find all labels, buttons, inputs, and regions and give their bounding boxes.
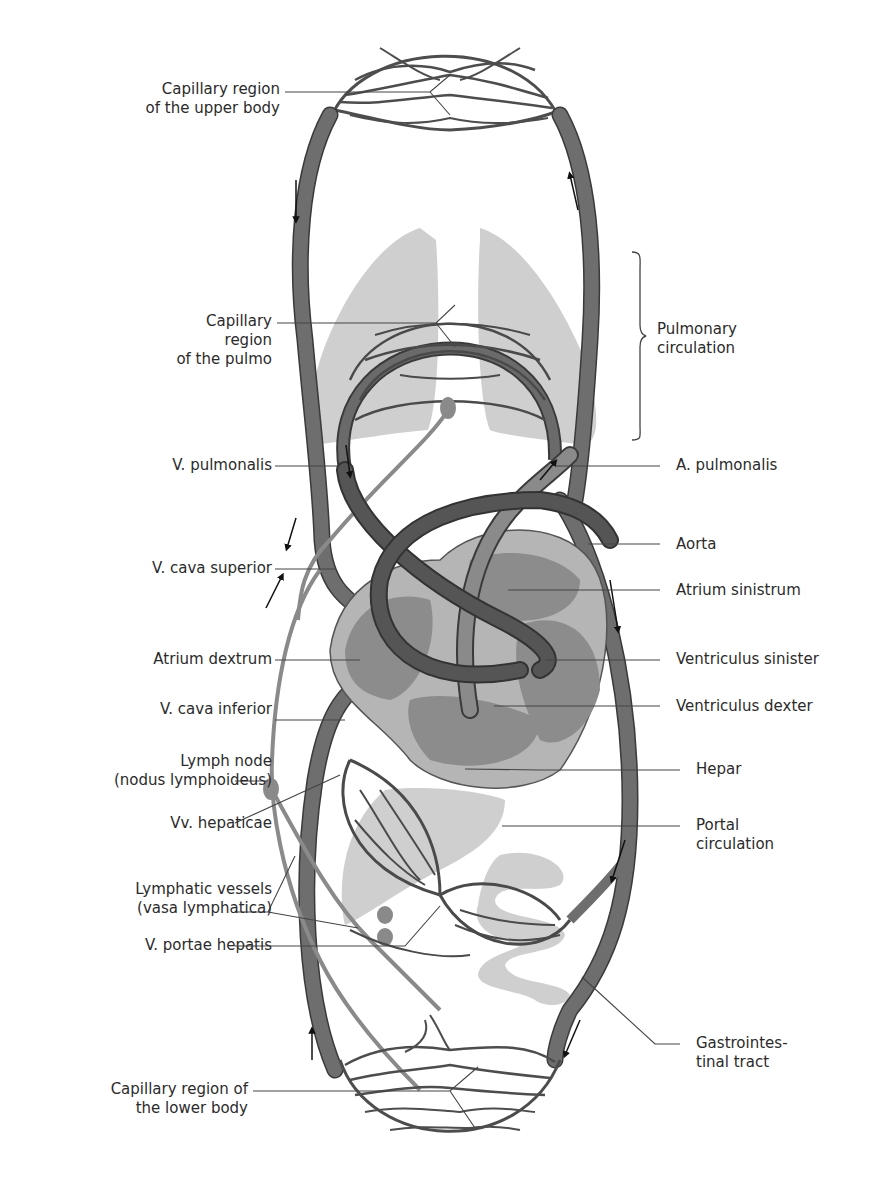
label-hepar: Hepar <box>696 760 741 779</box>
label-ventriculus-dexter: Ventriculus dexter <box>676 697 813 716</box>
label-portal-circulation: Portal circulation <box>696 816 774 854</box>
gi-tract <box>477 853 570 1005</box>
label-lymph-node: Lymph node (nodus lymphoideus) <box>114 752 272 790</box>
label-v-cava-superior: V. cava superior <box>152 559 272 578</box>
lower-body-capillaries <box>340 1015 560 1131</box>
label-atrium-dextrum: Atrium dextrum <box>153 650 272 669</box>
label-pulmonary-circulation: Pulmonary circulation <box>657 320 737 358</box>
label-a-pulmonalis: A. pulmonalis <box>676 456 777 475</box>
arrow-lymph-up <box>266 576 282 608</box>
label-aorta: Aorta <box>676 535 716 554</box>
label-ventriculus-sinister: Ventriculus sinister <box>676 650 819 669</box>
pulmonary-bracket <box>632 252 646 440</box>
abdominal-organs <box>342 788 570 1005</box>
label-capillary-pulmo: Capillary region of the pulmo <box>176 312 272 369</box>
label-lymphatic-vessels: Lymphatic vessels (vasa lymphatica) <box>135 880 272 918</box>
label-vv-hepaticae: Vv. hepaticae <box>170 814 272 833</box>
label-gastrointestinal-tract: Gastrointes- tinal tract <box>696 1034 788 1072</box>
label-atrium-sinistrum: Atrium sinistrum <box>676 581 801 600</box>
label-v-cava-inferior: V. cava inferior <box>160 700 272 719</box>
arrow-lymph-down <box>287 518 296 548</box>
label-v-portae-hepatis: V. portae hepatis <box>145 936 272 955</box>
label-v-pulmonalis: V. pulmonalis <box>172 456 272 475</box>
label-capillary-lower: Capillary region of the lower body <box>111 1080 248 1118</box>
label-capillary-upper: Capillary region of the upper body <box>146 80 280 118</box>
upper-body-capillaries <box>330 48 560 130</box>
